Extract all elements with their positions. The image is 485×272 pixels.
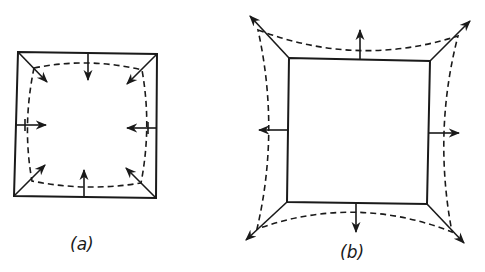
distortion-diagram <box>0 0 485 272</box>
panel-b <box>246 16 470 243</box>
panel-b-label: (b) <box>340 244 364 261</box>
inward-arrows-a <box>14 52 157 198</box>
panel-a-label: (a) <box>70 236 94 253</box>
panel-a <box>14 52 157 198</box>
square-b <box>287 58 430 204</box>
